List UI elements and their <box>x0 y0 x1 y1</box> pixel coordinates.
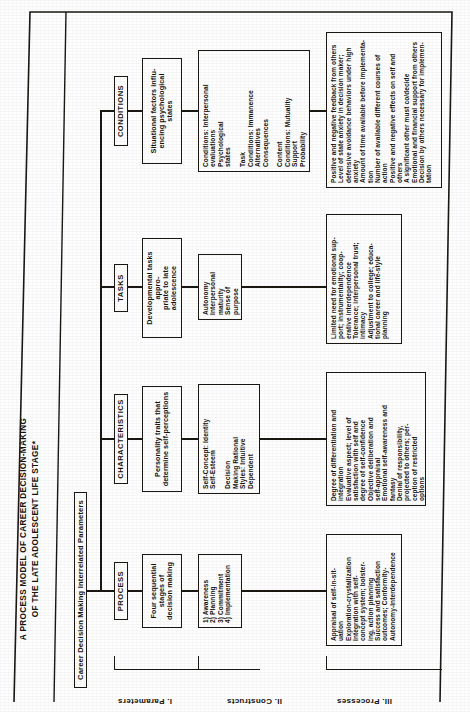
header-box-conditions: CONDITIONS <box>114 76 128 146</box>
header-box-process: PROCESS <box>114 562 128 620</box>
construct-box-tasks: Developmental tasks appro- priate to lat… <box>142 238 182 338</box>
construct-box-conditions: Situational factors influ- encing psycho… <box>142 58 182 164</box>
header-box-characteristics: CHARACTERISTICS <box>114 394 128 484</box>
detail-box-tasks: Autonomy Interpersonal maturity Sense of… <box>198 254 242 320</box>
connector-to-tasks-header <box>100 287 114 289</box>
connector-to-characteristics-header <box>100 439 114 441</box>
connector-to-process-header <box>100 591 114 593</box>
row-bracket-processes <box>326 656 442 670</box>
process-box-characteristics: Degree of differentiation and integratio… <box>326 372 426 506</box>
root-node-career-decision-making: Career Decision Making Interrelated Para… <box>74 492 87 688</box>
detail-box-conditions: Conditions: Interpersonal evaluations Ps… <box>198 50 310 172</box>
connector-conditions-construct-to-detail <box>182 111 198 113</box>
row-label-constructs: II. Constructs <box>227 697 282 706</box>
scanned-figure-page: A PROCESS MODEL OF CAREER DECISION-MAKIN… <box>0 0 470 712</box>
process-box-tasks: Limited need for emotional sup- port; in… <box>326 214 402 344</box>
row-bracket-constructs <box>198 656 260 670</box>
connector-to-conditions-header <box>100 111 114 113</box>
construct-box-characteristics: Personality traits that determine self-p… <box>142 386 182 492</box>
connector-tasks-detail-to-processes <box>242 287 326 289</box>
row-label-parameters: I. Parameters <box>118 697 172 706</box>
process-box-conditions: Positive and negative feedback from othe… <box>326 32 442 188</box>
connector-characteristics-detail-to-processes <box>260 439 326 441</box>
detail-box-characteristics: Self-Concept: Identity Self-Esteem Decis… <box>198 384 260 494</box>
connector-tasks-header-to-construct <box>128 287 142 289</box>
connector-conditions-detail-to-processes <box>310 111 326 113</box>
figure-canvas: A PROCESS MODEL OF CAREER DECISION-MAKIN… <box>0 0 470 712</box>
connector-process-header-to-construct <box>128 591 142 593</box>
connector-tasks-construct-to-detail <box>182 287 198 289</box>
construct-box-process: Four sequential stages of decision makin… <box>142 554 182 628</box>
connector-conditions-header-to-construct <box>128 111 142 113</box>
root-spine-drop <box>87 591 101 593</box>
root-spine-bus <box>100 112 102 592</box>
row-label-processes: III. Processes <box>337 697 392 706</box>
process-box-process: Appraisal of self-in-sit- uation Explora… <box>326 534 402 646</box>
header-box-tasks: TASKS <box>114 264 128 312</box>
connector-characteristics-construct-to-detail <box>182 439 198 441</box>
connector-process-detail-to-processes <box>242 591 326 593</box>
connector-process-construct-to-detail <box>182 591 198 593</box>
detail-box-process: 1) Awareness 2) Planning 3) Commitment 4… <box>198 554 242 628</box>
connector-characteristics-header-to-construct <box>128 439 142 441</box>
figure-title: A PROCESS MODEL OF CAREER DECISION-MAKIN… <box>18 364 43 694</box>
